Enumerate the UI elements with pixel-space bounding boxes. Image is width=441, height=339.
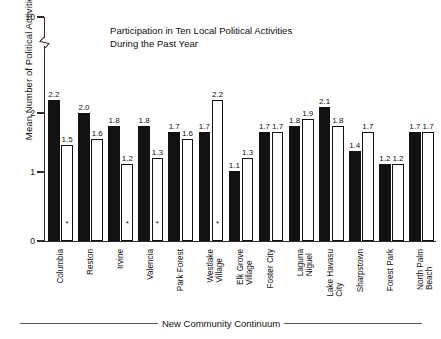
bar-group: 1.71.7 xyxy=(409,17,434,241)
y-tick-2: 2 xyxy=(0,113,35,123)
bar-value-label-series1: 1.7 xyxy=(409,122,420,131)
x-tick-label-line: Beach xyxy=(426,249,435,290)
bar-value-label-series2: 1.7 xyxy=(272,122,283,131)
bar-value-label-series1: 1.7 xyxy=(199,122,210,131)
bar-group: *1.81.3 xyxy=(138,17,163,241)
bar-value-label-series2: 2.2 xyxy=(212,90,223,99)
bar-value-label-series1: 1.8 xyxy=(109,116,120,125)
bar-value-label-series1: 1.7 xyxy=(259,122,270,131)
y-tick-mark-1 xyxy=(37,171,44,172)
bar-group: 1.11.3 xyxy=(229,17,254,241)
x-tick-label: LagunaNiguel xyxy=(297,249,314,276)
x-tick-label: Irvine xyxy=(117,249,126,269)
bar-value-label-series1: 1.8 xyxy=(289,116,300,125)
bar-group: 1.71.6 xyxy=(168,17,193,241)
x-tick-label-line: Valencia xyxy=(147,249,156,280)
x-tick-label-line: Sharpstown xyxy=(357,249,366,292)
y-tick-label-0: 0 xyxy=(0,236,35,246)
bar-value-label-series2: 1.8 xyxy=(332,116,343,125)
x-tick-label-line: Foster City xyxy=(267,249,276,289)
bar-group: 1.71.7 xyxy=(259,17,284,241)
x-tick-label: Elk GroveVillage xyxy=(237,249,254,285)
bar-value-label-series1: 1.8 xyxy=(139,116,150,125)
asterisk-marker: * xyxy=(66,220,69,228)
bar-series1 xyxy=(289,126,301,241)
bar-value-label-series1: 1.7 xyxy=(169,122,180,131)
bar-series2: * xyxy=(61,145,73,241)
x-tick-label-line: Niguel xyxy=(306,249,315,276)
bar-series1 xyxy=(168,132,180,241)
bar-series2 xyxy=(422,132,434,241)
bar-group: 1.21.2 xyxy=(379,17,404,241)
bar-series2: * xyxy=(121,164,133,241)
bar-series1 xyxy=(78,113,90,241)
bar-group: *2.21.5 xyxy=(48,17,73,241)
x-axis-label: New Community Continuum xyxy=(162,318,280,329)
bar-series2 xyxy=(91,139,103,241)
bar-series1 xyxy=(319,107,331,241)
bar-value-label-series1: 2.0 xyxy=(78,103,89,112)
x-tick-label-line: Reston xyxy=(87,249,96,275)
y-tick-1: 1 xyxy=(0,172,35,182)
bar-series1 xyxy=(229,171,241,241)
bar-value-label-series2: 1.5 xyxy=(62,135,73,144)
x-tick-label: WestlakeVillage xyxy=(207,249,224,283)
x-tick-label: Reston xyxy=(87,249,96,275)
bar-value-label-series2: 1.7 xyxy=(362,122,373,131)
bar-value-label-series1: 1.1 xyxy=(229,161,240,170)
bar-value-label-series1: 2.2 xyxy=(48,90,59,99)
bar-series1 xyxy=(259,132,271,241)
bar-series2 xyxy=(272,132,284,241)
y-tick-mark-0 xyxy=(37,240,44,241)
bar-series1 xyxy=(48,100,60,241)
plot-area: *2.21.52.01.6*1.81.2*1.81.31.71.6*1.72.2… xyxy=(45,17,436,241)
x-tick-label: Park Forest xyxy=(177,249,186,291)
x-tick-label-line: Irvine xyxy=(117,249,126,269)
x-tick-label-line: Columbia xyxy=(57,249,66,284)
bar-value-label-series2: 1.6 xyxy=(182,129,193,138)
x-tick-label: Columbia xyxy=(57,249,66,284)
y-tick-0: 0 xyxy=(0,241,35,251)
bar-value-label-series1: 2.1 xyxy=(319,97,330,106)
y-tick-mark-10 xyxy=(37,16,44,17)
bar-value-label-series2: 1.2 xyxy=(392,154,403,163)
bar-value-label-series2: 1.3 xyxy=(242,148,253,157)
x-tick-label-line: Forest Park xyxy=(387,249,396,291)
x-tick-label: Valencia xyxy=(147,249,156,280)
x-tick-label-line: Village xyxy=(246,249,255,285)
bar-series1 xyxy=(138,126,150,241)
x-tick-label: Forest Park xyxy=(387,249,396,291)
y-tick-label-2: 2 xyxy=(0,108,35,118)
bar-series1 xyxy=(349,151,361,241)
bar-series2: * xyxy=(152,158,164,241)
y-tick-label-1: 1 xyxy=(0,167,35,177)
x-axis-baseline xyxy=(44,241,436,242)
bar-value-label-series2: 1.7 xyxy=(422,122,433,131)
x-tick-label-line: Village xyxy=(216,249,225,283)
bar-series2: * xyxy=(212,100,224,241)
bar-series1 xyxy=(409,132,421,241)
bar-series2 xyxy=(242,158,254,241)
bar-value-label-series1: 1.4 xyxy=(349,141,360,150)
bar-value-label-series2: 1.6 xyxy=(92,129,103,138)
bar-series2 xyxy=(392,164,404,241)
bar-group: *1.81.2 xyxy=(108,17,133,241)
bar-series2 xyxy=(302,119,314,241)
bar-series2 xyxy=(182,139,194,241)
x-axis-title-row: New Community Continuum xyxy=(20,318,422,329)
bar-group: *1.72.2 xyxy=(199,17,224,241)
bar-series1 xyxy=(379,164,391,241)
x-tick-label: North PalmBeach xyxy=(417,249,434,290)
y-tick-mark-2 xyxy=(37,112,44,113)
x-tick-label-line: City xyxy=(336,249,345,297)
bar-value-label-series1: 1.2 xyxy=(379,154,390,163)
bar-value-label-series2: 1.2 xyxy=(122,154,133,163)
bar-group: 2.11.8 xyxy=(319,17,344,241)
bar-group: 1.81.9 xyxy=(289,17,314,241)
bar-series2 xyxy=(332,126,344,241)
bar-value-label-series2: 1.9 xyxy=(302,109,313,118)
x-tick-label: Lake HavasuCity xyxy=(327,249,344,297)
x-tick-label-line: Park Forest xyxy=(177,249,186,291)
asterisk-marker: * xyxy=(126,220,129,228)
bar-value-label-series2: 1.3 xyxy=(152,148,163,157)
